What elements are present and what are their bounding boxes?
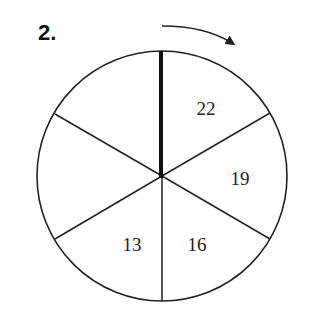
sector-label-19: 19 <box>231 168 250 189</box>
sector-label-13: 13 <box>123 234 142 255</box>
sector-label-16: 16 <box>188 234 207 255</box>
sector-label-22: 22 <box>197 98 216 119</box>
spinner-diagram: 22 19 16 13 <box>0 0 310 323</box>
clockwise-arrow-icon <box>162 26 232 43</box>
